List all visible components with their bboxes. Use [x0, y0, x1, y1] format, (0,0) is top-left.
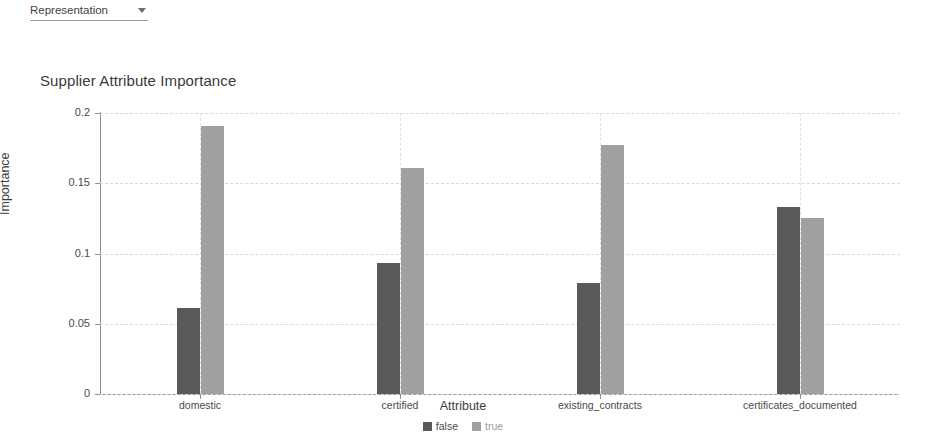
y-tick-mark [95, 113, 100, 114]
bar-existing_contracts-false[interactable] [577, 283, 600, 394]
bar-chart: Supplier Attribute Importance Importance… [0, 0, 926, 445]
y-tick-label: 0.05 [48, 317, 90, 329]
bar-domestic-false[interactable] [177, 308, 200, 394]
legend-item-true[interactable]: true [472, 420, 503, 432]
bar-certified-true[interactable] [401, 168, 424, 394]
x-tick-label: certified [382, 399, 419, 411]
y-tick-mark [95, 324, 100, 325]
legend-label-false: false [436, 420, 458, 432]
legend-label-true: true [485, 420, 503, 432]
chart-legend: falsetrue [0, 420, 926, 432]
y-tick-label: 0.1 [48, 247, 90, 259]
legend-swatch-true [472, 422, 481, 431]
legend-swatch-false [423, 422, 432, 431]
gridline-horizontal [100, 394, 900, 395]
plot-area [100, 113, 900, 394]
gridline-horizontal [100, 113, 900, 114]
bar-existing_contracts-true[interactable] [601, 145, 624, 394]
x-tick-label: existing_contracts [558, 399, 642, 411]
bar-certificates_documented-true[interactable] [801, 218, 824, 394]
y-tick-label: 0.15 [48, 176, 90, 188]
y-tick-mark [95, 394, 100, 395]
bar-certificates_documented-false[interactable] [777, 207, 800, 394]
x-tick-label: domestic [179, 399, 221, 411]
legend-item-false[interactable]: false [423, 420, 458, 432]
chart-title: Supplier Attribute Importance [40, 72, 236, 89]
y-tick-label: 0 [48, 387, 90, 399]
y-tick-mark [95, 254, 100, 255]
y-tick-label: 0.2 [48, 106, 90, 118]
bar-certified-false[interactable] [377, 263, 400, 394]
x-tick-label: certificates_documented [743, 399, 857, 411]
bar-domestic-true[interactable] [201, 126, 224, 394]
y-axis-title: Importance [0, 152, 12, 215]
y-tick-mark [95, 183, 100, 184]
